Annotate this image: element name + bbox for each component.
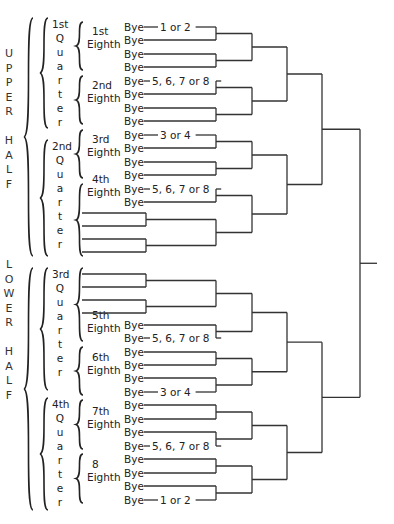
eighth-brace (76, 400, 83, 449)
half-label-letter: O (5, 273, 14, 286)
quarter-label: r (58, 116, 63, 128)
eighth-label: 1st (92, 25, 108, 37)
eighth-brace (76, 454, 83, 503)
tournament-bracket: UPPERHALFLOWERHALF 1stQuarter2ndQuarter3… (0, 0, 394, 524)
eighth-brace (76, 22, 83, 70)
quarter-label: u (57, 296, 64, 308)
bye-label: Bye (124, 372, 144, 384)
seed-label: 1 or 2 (160, 21, 191, 33)
bye-label: Bye (124, 21, 144, 33)
bye-label: Bye (124, 399, 144, 411)
half-label-letter: L (6, 374, 13, 387)
bye-label: Bye (124, 426, 144, 438)
quarter-label: t (58, 338, 62, 350)
bye-label: Bye (124, 169, 144, 181)
seed-label: 3 or 4 (160, 386, 191, 398)
bye-label: Bye (124, 346, 144, 358)
quarter-label: t (58, 468, 62, 480)
bye-label: Bye (124, 129, 144, 141)
quarter-label: r (58, 366, 63, 378)
quarter-label: Q (56, 32, 64, 44)
quarter-label: a (57, 440, 63, 452)
seed-label: 5, 6, 7 or 8 (152, 75, 210, 87)
eighth-labels: 1stEighth2ndEighth3rdEighth4thEighth5thE… (87, 25, 121, 483)
quarter-label: e (57, 102, 63, 114)
bye-label: Bye (124, 359, 144, 371)
bye-label: Bye (124, 332, 144, 344)
quarter-label: u (57, 168, 64, 180)
upper-half-brace (24, 18, 33, 256)
bye-label: Bye (124, 467, 144, 479)
bye-label: Bye (124, 480, 144, 492)
half-label-letter: P (6, 76, 13, 89)
quarter-label: t (58, 210, 62, 222)
eighth-label: Eighth (87, 146, 121, 158)
half-label-letter: A (5, 149, 13, 162)
quarter-label: r (58, 74, 63, 86)
seed-label: 5, 6, 7 or 8 (152, 183, 210, 195)
bye-label: Bye (124, 142, 144, 154)
eighth-label: 7th (92, 405, 109, 417)
bye-label: Bye (124, 413, 144, 425)
quarter-label: e (57, 352, 63, 364)
quarter-label: r (58, 454, 63, 466)
seed-label: 3 or 4 (160, 129, 191, 141)
seed-label: 5, 6, 7 or 8 (152, 332, 210, 344)
eighth-label: Eighth (87, 364, 121, 376)
quarter-label: a (57, 182, 63, 194)
quarter-label: t (58, 88, 62, 100)
half-label-letter: L (6, 258, 13, 271)
bye-label: Bye (124, 48, 144, 60)
lower-half-brace (24, 268, 33, 510)
eighth-label: Eighth (87, 322, 121, 334)
quarter-label: Q (56, 282, 64, 294)
bye-label: Bye (124, 183, 144, 195)
half-label-letter: E (6, 91, 13, 104)
eighth-label: 8 (92, 458, 99, 470)
bye-label: Bye (124, 34, 144, 46)
seed-label: 1 or 2 (160, 494, 191, 506)
eighth-label: Eighth (87, 92, 121, 104)
quarter-brace (40, 268, 48, 390)
quarter-label: r (58, 324, 63, 336)
quarter-brace (40, 398, 48, 510)
quarter-brace (40, 140, 48, 256)
quarter-label: u (57, 46, 64, 58)
bye-label: Bye (124, 115, 144, 127)
quarter-label: 4th (52, 398, 69, 410)
eighth-brace (76, 76, 83, 124)
eighth-brace (76, 184, 83, 256)
half-labels: UPPERHALFLOWERHALF (4, 47, 15, 402)
half-label-letter: H (5, 134, 13, 147)
bye-label: Bye (124, 319, 144, 331)
eighth-label: Eighth (87, 186, 121, 198)
quarter-label: a (57, 60, 63, 72)
eighth-label: 4th (92, 173, 109, 185)
quarter-label: e (57, 224, 63, 236)
quarter-label: 2nd (52, 140, 72, 152)
half-label-letter: L (6, 163, 13, 176)
bye-label: Bye (124, 386, 144, 398)
quarter-labels: 1stQuarter2ndQuarter3rdQuarter4thQuarter (52, 18, 72, 508)
bye-label: Bye (124, 102, 144, 114)
braces (24, 18, 83, 510)
half-label-letter: E (6, 302, 13, 315)
eighth-brace (76, 130, 83, 178)
eighth-label: Eighth (87, 418, 121, 430)
seed-label: 5, 6, 7 or 8 (152, 440, 210, 452)
bye-label: Bye (124, 440, 144, 452)
quarter-label: 1st (52, 18, 68, 30)
bye-label: Bye (124, 156, 144, 168)
bye-label: Bye (124, 75, 144, 87)
quarter-label: Q (56, 412, 64, 424)
quarter-label: r (58, 496, 63, 508)
quarter-label: a (57, 310, 63, 322)
eighth-label: 3rd (92, 133, 109, 145)
bye-label: Bye (124, 61, 144, 73)
quarter-label: 3rd (52, 268, 69, 280)
quarter-label: r (58, 196, 63, 208)
half-label-letter: R (5, 105, 13, 118)
quarter-label: e (57, 482, 63, 494)
half-label-letter: F (6, 178, 12, 191)
eighth-label: 5th (92, 309, 109, 321)
